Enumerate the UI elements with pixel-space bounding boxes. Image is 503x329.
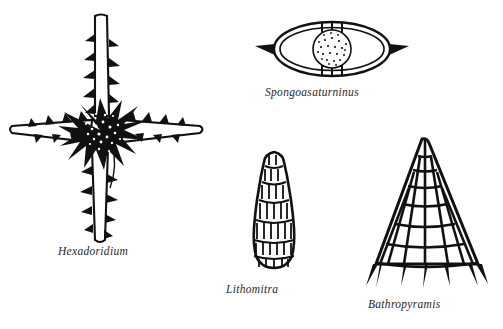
figure-bathropyramis [360, 136, 500, 288]
figure-label-hexadoridium: Hexadoridium [58, 245, 128, 257]
figure-hexadoridium [0, 8, 215, 243]
spongoasaturninus-artwork [255, 22, 409, 76]
figure-label-spongoasaturninus: Spongoasaturninus [265, 86, 359, 98]
hexadoridium-artwork [10, 15, 203, 243]
illustration-plate: Hexadoridium [0, 0, 503, 329]
figure-lithomitra [238, 150, 310, 272]
lithomitra-artwork [254, 152, 295, 268]
figure-label-bathropyramis: Bathropyramis [368, 298, 440, 310]
figure-label-lithomitra: Lithomitra [226, 283, 278, 295]
figure-spongoasaturninus [252, 16, 412, 82]
bathropyramis-artwork [366, 139, 488, 288]
